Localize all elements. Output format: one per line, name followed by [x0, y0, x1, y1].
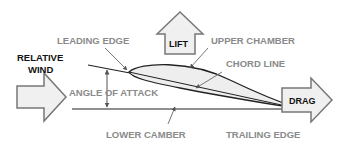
relative-wind-label-line1: RELATIVE	[17, 52, 63, 63]
trailing-edge-label: TRAILING EDGE	[226, 129, 300, 140]
relative-wind-arrow-icon	[17, 73, 66, 121]
leading-edge-leader	[105, 48, 127, 70]
angle-of-attack-label: ANGLE OF ATTACK	[69, 87, 158, 98]
chord-line-label: CHORD LINE	[226, 58, 285, 69]
lower-camber-label: LOWER CAMBER	[106, 129, 186, 140]
lift-label: LIFT	[169, 39, 188, 49]
drag-label: DRAG	[289, 96, 316, 106]
airfoil-diagram: LEADING EDGE LIFT UPPER CHAMBER CHORD LI…	[0, 0, 341, 149]
upper-chamber-label: UPPER CHAMBER	[211, 35, 295, 46]
relative-wind-label-line2: WIND	[28, 64, 53, 75]
leading-edge-label: LEADING EDGE	[57, 35, 129, 46]
